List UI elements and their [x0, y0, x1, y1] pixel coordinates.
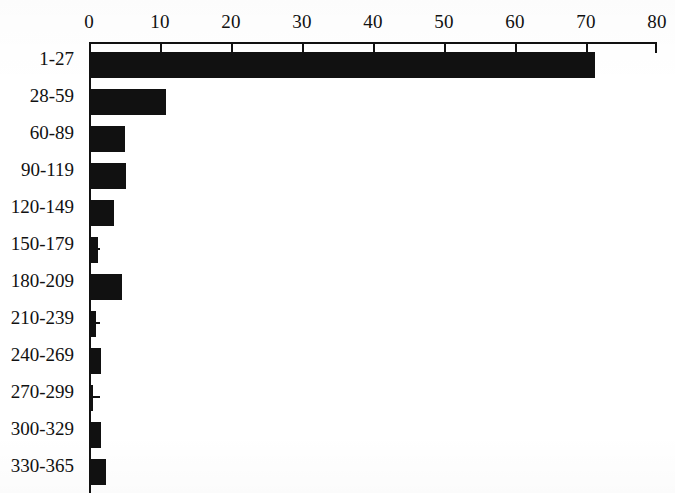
x-axis-tick-label: 0: [84, 12, 94, 31]
bar-row: 1-27: [0, 44, 675, 81]
bar-row: 210-239: [0, 303, 675, 340]
bar: [91, 422, 101, 448]
bar: [91, 311, 96, 337]
category-label: 150-179: [11, 232, 74, 256]
bar-track: [91, 385, 93, 411]
x-axis-tick-label: 20: [221, 12, 240, 31]
x-axis-tick-label: 80: [647, 12, 666, 31]
x-axis-tick-label: 70: [576, 12, 595, 31]
category-label: 90-119: [21, 158, 74, 182]
bar-track: [91, 422, 101, 448]
category-label: 270-299: [11, 380, 74, 404]
bar-track: [91, 126, 125, 152]
bar: [91, 274, 122, 300]
bar-row: 150-179: [0, 229, 675, 266]
bar-chart-figure: 01020304050607080 1-2728-5960-8990-11912…: [0, 0, 675, 493]
x-axis: 01020304050607080: [89, 42, 657, 43]
bar: [91, 459, 106, 485]
category-label: 330-365: [11, 454, 74, 478]
bar-track: [91, 274, 122, 300]
bar-track: [91, 348, 101, 374]
bar: [91, 52, 595, 78]
bar: [91, 237, 98, 263]
bar-row: 270-299: [0, 377, 675, 414]
x-axis-tick-label: 30: [292, 12, 311, 31]
category-label: 120-149: [11, 195, 74, 219]
category-label: 1-27: [39, 47, 74, 71]
category-label: 210-239: [11, 306, 74, 330]
bar-track: [91, 52, 595, 78]
bar-row: 240-269: [0, 340, 675, 377]
category-label: 180-209: [11, 269, 74, 293]
bar: [91, 348, 101, 374]
bar-track: [91, 200, 114, 226]
bar-track: [91, 89, 166, 115]
bar-track: [91, 237, 98, 263]
bar-track: [91, 163, 126, 189]
x-axis-tick-label: 10: [150, 12, 169, 31]
bar-rows: 1-2728-5960-8990-119120-149150-179180-20…: [0, 44, 675, 488]
bar-row: 300-329: [0, 414, 675, 451]
x-axis-tick-label: 40: [363, 12, 382, 31]
bar-row: 180-209: [0, 266, 675, 303]
bar: [91, 200, 114, 226]
category-label: 28-59: [30, 84, 74, 108]
bar-row: 90-119: [0, 155, 675, 192]
bar-row: 330-365: [0, 451, 675, 488]
bar-row: 120-149: [0, 192, 675, 229]
bar: [91, 126, 125, 152]
category-label: 60-89: [30, 121, 74, 145]
bar-row: 28-59: [0, 81, 675, 118]
category-label: 300-329: [11, 417, 74, 441]
x-axis-tick-label: 50: [434, 12, 453, 31]
bar-track: [91, 311, 96, 337]
bar: [91, 385, 93, 411]
bar-row: 60-89: [0, 118, 675, 155]
category-label: 240-269: [11, 343, 74, 367]
bar: [91, 163, 126, 189]
x-axis-tick-label: 60: [505, 12, 524, 31]
bar: [91, 89, 166, 115]
bar-track: [91, 459, 106, 485]
